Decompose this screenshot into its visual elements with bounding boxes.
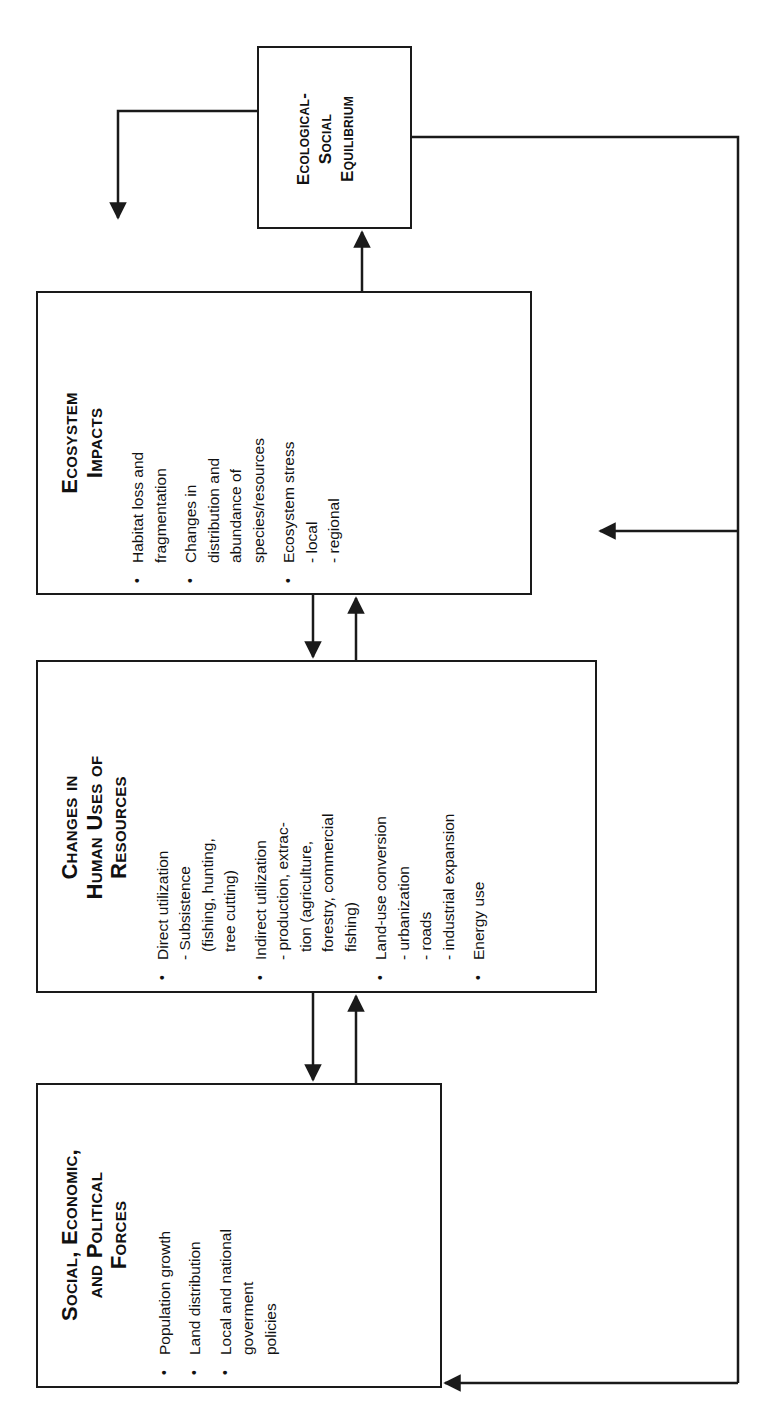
bullet-icon: •: [152, 960, 242, 980]
bullet-icon: •: [184, 1355, 206, 1375]
bullet-list: • Population growth • Land distribution …: [154, 1095, 282, 1375]
list-item: • Habitat loss and fragmentation: [127, 303, 172, 583]
list-item: • Local and national goverment policies: [215, 1095, 282, 1375]
box-changes-in-human-uses-of-resources: Changes in Human Uses of Resources • Dir…: [36, 660, 597, 993]
bullet-list: • Direct utilization - Subsistence (fish…: [152, 675, 491, 980]
list-item: • Direct utilization - Subsistence (fish…: [152, 675, 242, 980]
box-title: Ecological- Social Equilibrium: [293, 58, 359, 220]
list-item: • Land distribution: [184, 1095, 206, 1375]
box-ecological-social-equilibrium: Ecological- Social Equilibrium: [257, 46, 412, 229]
list-item: • Land-use conversion - urbanization - r…: [370, 675, 460, 980]
bullet-icon: •: [215, 1355, 282, 1375]
bullet-icon: •: [278, 563, 345, 583]
bullet-icon: •: [468, 960, 490, 980]
list-item: • Ecosystem stress - local - regional: [278, 303, 345, 583]
bullet-list: • Habitat loss and fragmentation • Chang…: [127, 303, 345, 583]
diagram-canvas: Social, Economic, and Political Forces •…: [0, 0, 764, 1411]
box-title: Social, Economic, and Political Forces: [58, 1095, 132, 1375]
list-item: • Energy use: [468, 675, 490, 980]
arrow-equilibrium-feedback-open: [118, 111, 257, 218]
bullet-icon: •: [370, 960, 460, 980]
box-social-economic-political-forces: Social, Economic, and Political Forces •…: [36, 1083, 442, 1388]
list-item: • Population growth: [154, 1095, 176, 1375]
bullet-icon: •: [250, 960, 362, 980]
bullet-icon: •: [154, 1355, 176, 1375]
bullet-icon: •: [127, 563, 172, 583]
box-ecosystem-impacts: Ecosystem Impacts • Habitat loss and fra…: [36, 291, 532, 595]
box-title: Changes in Human Uses of Resources: [58, 675, 132, 980]
bullet-icon: •: [180, 563, 270, 583]
list-item: • Changes in distribution and abundance …: [180, 303, 270, 583]
box-title: Ecosystem Impacts: [58, 303, 107, 583]
list-item: • Indirect utilization - production, ext…: [250, 675, 362, 980]
